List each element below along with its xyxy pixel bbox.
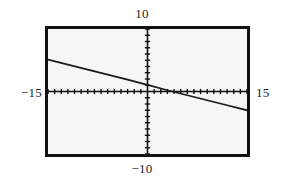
axes-group — [48, 29, 247, 154]
axis-label-x-max: 15 — [256, 86, 282, 99]
axis-label-y-max: 10 — [0, 7, 284, 20]
axis-label-y-min: −10 — [0, 162, 284, 175]
plot-canvas — [48, 29, 247, 154]
graph-figure: 10 −15 15 −10 — [0, 0, 284, 183]
plot-frame — [45, 26, 250, 157]
axis-label-x-min: −15 — [10, 86, 42, 99]
